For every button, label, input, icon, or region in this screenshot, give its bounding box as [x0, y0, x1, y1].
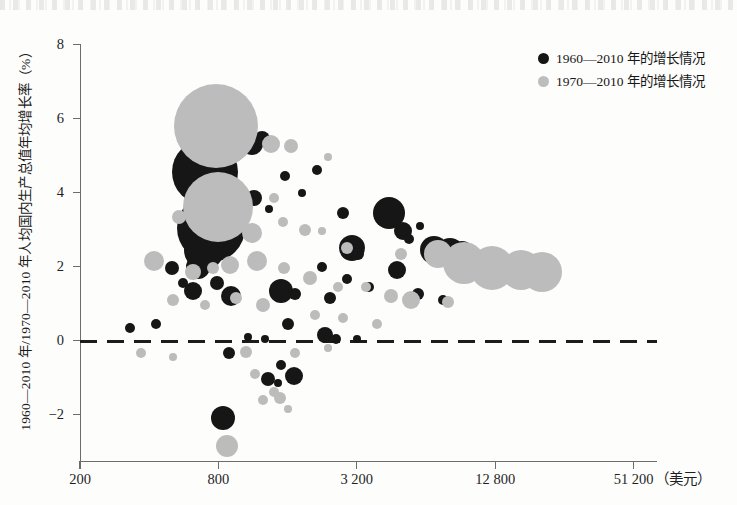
x-tick-mark [356, 461, 357, 469]
x-tick-mark [218, 461, 219, 469]
y-axis-line [80, 44, 81, 462]
bubble-1960-2010 [221, 286, 241, 306]
x-tick-label: 12 800 [475, 472, 515, 487]
bubble-1970-2010 [200, 300, 210, 310]
bubble-1970-2010 [144, 251, 164, 271]
bubble-1960-2010 [241, 133, 263, 155]
bubble-1970-2010 [258, 395, 268, 405]
bubble-1970-2010 [324, 344, 332, 352]
bubble-1960-2010 [276, 360, 286, 370]
bubble-1960-2010 [337, 207, 349, 219]
legend-item-1960-label: 1960—2010 年的增长情况 [556, 52, 705, 66]
bubble-1970-2010 [395, 248, 407, 260]
bubble-1970-2010 [240, 346, 252, 358]
bubble-1970-2010 [269, 387, 279, 397]
legend: 1960—2010 年的增长情况 1970—2010 年的增长情况 [538, 48, 737, 94]
bubble-1960-2010 [280, 171, 290, 181]
bubble-1970-2010 [299, 224, 311, 236]
bubble-1970-2010 [274, 392, 286, 404]
x-tick-mark [633, 461, 634, 469]
scan-artifact [0, 0, 737, 10]
bubble-1960-2010 [289, 288, 301, 300]
bubble-1960-2010 [312, 165, 322, 175]
y-tick-mark [73, 44, 81, 45]
bubble-1970-2010 [310, 310, 320, 320]
bubble-1970-2010 [303, 271, 317, 285]
bubble-1960-2010 [342, 274, 352, 284]
y-tick-mark [73, 118, 81, 119]
bubble-1960-2010 [274, 379, 282, 387]
bubble-1970-2010 [284, 405, 292, 413]
bubble-1960-2010 [465, 249, 485, 269]
bubble-1970-2010 [262, 135, 280, 153]
bubble-1960-2010 [261, 372, 275, 386]
bubble-1970-2010 [247, 251, 267, 271]
bubble-1960-2010 [223, 347, 235, 359]
bubble-1960-2010 [210, 276, 224, 290]
bubble-1960-2010 [211, 406, 235, 430]
x-tick-label: 800 [208, 472, 230, 487]
bubble-1960-2010 [438, 295, 448, 305]
bubble-1960-2010 [449, 241, 475, 267]
legend-item-1960: 1960—2010 年的增长情况 [538, 48, 737, 69]
bubble-1970-2010 [318, 227, 326, 235]
bubble-1960-2010 [240, 209, 248, 217]
bubble-1970-2010 [174, 84, 258, 168]
bubble-1960-2010 [364, 282, 374, 292]
bubble-1960-2010 [184, 230, 224, 270]
bubble-1970-2010 [442, 296, 454, 308]
x-tick-label: 200 [69, 472, 91, 487]
y-tick-label: 2 [30, 259, 64, 274]
bubble-1970-2010 [424, 240, 452, 268]
bubble-1960-2010 [324, 292, 336, 304]
zero-reference-line [80, 340, 657, 343]
x-tick-mark [495, 461, 496, 469]
bubble-1960-2010 [269, 279, 293, 303]
black-dot-icon [538, 53, 549, 64]
bubble-1970-2010 [501, 250, 541, 290]
y-tick-label: 8 [30, 37, 64, 52]
bubble-1960-2010 [172, 139, 238, 205]
bubble-1960-2010 [265, 205, 273, 213]
bubble-1960-2010 [150, 255, 162, 267]
y-tick-mark [73, 192, 81, 193]
bubble-1960-2010 [125, 323, 135, 333]
legend-item-1970-label: 1970—2010 年的增长情况 [556, 75, 705, 89]
bubble-1960-2010 [436, 238, 464, 266]
x-axis-unit-label: （美元） [655, 472, 711, 487]
x-axis-line [80, 461, 657, 462]
y-tick-mark [73, 414, 81, 415]
bubble-1970-2010 [242, 223, 262, 243]
bubble-1970-2010 [172, 210, 186, 224]
bubble-1970-2010 [324, 153, 332, 161]
bubble-1970-2010 [237, 187, 249, 199]
bubble-1960-2010 [186, 255, 210, 279]
bubble-1960-2010 [404, 234, 414, 244]
x-tick-label: 3 200 [340, 472, 373, 487]
bubble-1970-2010 [207, 262, 219, 274]
bubble-1960-2010 [184, 282, 202, 300]
bubble-1960-2010 [420, 236, 448, 264]
bubble-1960-2010 [497, 261, 511, 275]
legend-item-1970: 1970—2010 年的增长情况 [538, 71, 737, 92]
bubble-1970-2010 [185, 264, 201, 280]
y-tick-label: 6 [30, 111, 64, 126]
bubble-1960-2010 [481, 257, 497, 273]
bubble-1960-2010 [394, 222, 412, 240]
y-tick-label: 4 [30, 185, 64, 200]
bubble-1960-2010 [282, 318, 294, 330]
bubble-1960-2010 [165, 261, 179, 275]
bubble-1970-2010 [338, 313, 348, 323]
bubble-1960-2010 [317, 262, 327, 272]
bubble-1970-2010 [278, 262, 290, 274]
bubble-1970-2010 [278, 217, 288, 227]
bubble-1970-2010 [136, 348, 146, 358]
bubble-1960-2010 [285, 367, 303, 385]
x-tick-mark [79, 461, 80, 469]
bubble-1960-2010 [298, 189, 306, 197]
bubble-1960-2010 [246, 190, 262, 206]
y-axis-title: 1960—2010 年/1970—2010 年人均国内生产总值年均增长率（%） [14, 8, 34, 468]
bubble-1970-2010 [333, 282, 343, 292]
bubble-1970-2010 [290, 348, 300, 358]
bubble-1970-2010 [443, 242, 485, 284]
